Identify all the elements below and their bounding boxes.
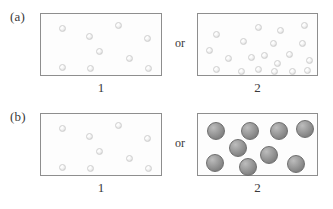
particle-sphere — [144, 135, 151, 142]
particle-sphere — [145, 65, 152, 72]
particle-sphere — [213, 31, 220, 38]
particle-sphere — [296, 120, 314, 138]
panel-b: (b) 1 or 2 — [0, 100, 333, 209]
particle-sphere — [86, 33, 93, 40]
particle-sphere — [260, 146, 278, 164]
particle-sphere — [239, 158, 257, 176]
panel-a-box-1 — [40, 13, 162, 76]
particle-sphere — [207, 122, 225, 140]
panel-b-or-text: or — [164, 136, 196, 150]
particle-sphere — [255, 24, 262, 31]
particle-sphere — [277, 27, 284, 34]
particle-sphere — [86, 133, 93, 140]
particle-sphere — [87, 65, 94, 72]
particle-sphere — [306, 57, 313, 64]
panel-a-box-2-caption: 2 — [197, 80, 318, 95]
particle-sphere — [126, 55, 133, 62]
panel-a-label: (a) — [10, 10, 25, 24]
particle-sphere — [59, 164, 66, 171]
particle-sphere — [96, 48, 103, 55]
particle-sphere — [96, 148, 103, 155]
particle-sphere — [241, 122, 259, 140]
particle-sphere — [213, 66, 220, 73]
particle-sphere — [144, 35, 151, 42]
particle-sphere — [304, 67, 311, 74]
particle-sphere — [115, 122, 122, 129]
panel-a: (a) 1 or 2 — [0, 0, 333, 105]
particle-sphere — [261, 52, 268, 59]
particle-sphere — [225, 55, 232, 62]
particle-sphere — [238, 68, 245, 75]
figure-container: (a) 1 or 2 (b) 1 or 2 — [0, 0, 333, 209]
particle-sphere — [299, 40, 306, 47]
particle-sphere — [59, 25, 66, 32]
panel-b-box-1 — [40, 113, 162, 176]
panel-b-box-2-caption: 2 — [197, 180, 318, 195]
particle-sphere — [274, 60, 281, 67]
particle-sphere — [229, 139, 247, 157]
particle-sphere — [286, 51, 293, 58]
particle-sphere — [115, 22, 122, 29]
panel-b-box-1-caption: 1 — [40, 180, 162, 195]
particle-sphere — [248, 54, 255, 61]
particle-sphere — [59, 64, 66, 71]
particle-sphere — [301, 22, 308, 29]
panel-b-label: (b) — [10, 110, 26, 124]
particle-sphere — [289, 68, 296, 75]
particle-sphere — [145, 165, 152, 172]
particle-sphere — [87, 165, 94, 172]
particle-sphere — [270, 40, 277, 47]
panel-a-box-1-caption: 1 — [40, 80, 162, 95]
particle-sphere — [126, 155, 133, 162]
particle-sphere — [206, 47, 213, 54]
panel-a-or-text: or — [164, 36, 196, 50]
particle-sphere — [287, 155, 305, 173]
particle-sphere — [271, 68, 278, 75]
particle-sphere — [270, 122, 288, 140]
particle-sphere — [255, 66, 262, 73]
panel-b-box-2 — [197, 113, 318, 176]
particle-sphere — [59, 125, 66, 132]
particle-sphere — [206, 154, 224, 172]
panel-a-box-2 — [197, 13, 318, 76]
particle-sphere — [240, 38, 247, 45]
